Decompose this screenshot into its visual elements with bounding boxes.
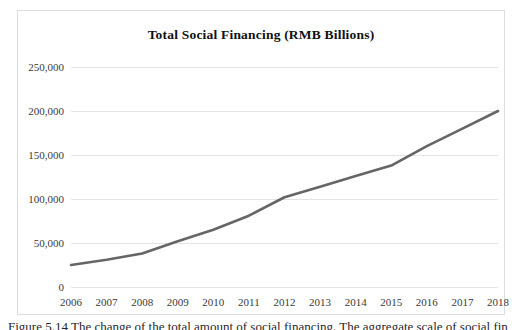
series-line-total-social-financing — [71, 111, 498, 265]
gridline — [71, 287, 498, 288]
y-axis-tick-label: 100,000 — [28, 193, 64, 205]
figure-container: Total Social Financing (RMB Billions) 05… — [0, 0, 514, 330]
x-axis-tick-label: 2013 — [309, 296, 331, 308]
y-axis-tick-label: 250,000 — [28, 61, 64, 73]
x-axis-tick-label: 2010 — [202, 296, 224, 308]
x-axis-tick-label: 2006 — [60, 296, 82, 308]
x-axis-tick-label: 2015 — [380, 296, 402, 308]
x-axis-tick-label: 2008 — [131, 296, 153, 308]
x-axis-tick-label: 2011 — [238, 296, 260, 308]
series-line-chart — [71, 67, 498, 287]
figure-caption: Figure 5.14 The change of the total amou… — [8, 319, 508, 330]
x-axis-tick-label: 2012 — [274, 296, 296, 308]
x-axis-tick-label: 2017 — [451, 296, 473, 308]
x-axis-tick-label: 2014 — [345, 296, 367, 308]
chart-frame: Total Social Financing (RMB Billions) 05… — [17, 10, 505, 315]
chart-title: Total Social Financing (RMB Billions) — [18, 27, 504, 43]
plot-area: 050,000100,000150,000200,000250,000 2006… — [71, 67, 498, 287]
y-axis-tick-label: 0 — [59, 281, 65, 293]
y-axis-tick-label: 150,000 — [28, 149, 64, 161]
y-axis-tick-label: 50,000 — [34, 237, 64, 249]
x-axis-tick-label: 2018 — [487, 296, 509, 308]
x-axis-tick-label: 2007 — [96, 296, 118, 308]
x-axis-tick-label: 2009 — [167, 296, 189, 308]
x-axis-tick-label: 2016 — [416, 296, 438, 308]
y-axis-tick-label: 200,000 — [28, 105, 64, 117]
